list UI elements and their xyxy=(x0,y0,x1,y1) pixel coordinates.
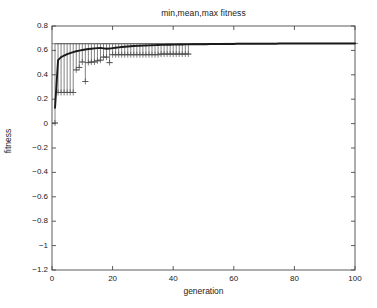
figure-canvas: min,mean,max fitness fitness generation … xyxy=(0,0,377,308)
errorbar-series xyxy=(52,43,358,123)
plot-area xyxy=(0,0,377,308)
mean-line-series xyxy=(55,43,355,107)
mean-fitness-line xyxy=(55,43,355,107)
